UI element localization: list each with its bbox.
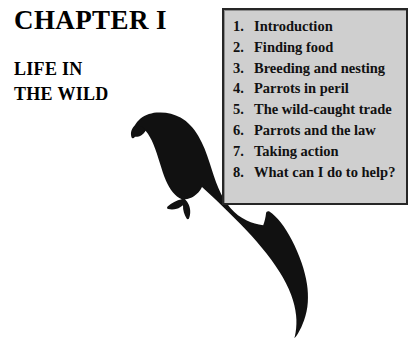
list-item-number: 5.: [230, 99, 251, 120]
list-item-label: Parrots in peril: [251, 78, 402, 99]
list-item-number: 6.: [230, 120, 251, 141]
list-item-label: Introduction: [251, 16, 402, 37]
list-item-number: 3.: [230, 58, 251, 79]
list-item[interactable]: 4. Parrots in peril: [230, 78, 402, 99]
chapter-subtitle-line-2: THE WILD: [14, 82, 109, 107]
list-item[interactable]: 3. Breeding and nesting: [230, 58, 402, 79]
list-item[interactable]: 2. Finding food: [230, 37, 402, 58]
chapter-subtitle: LIFE IN THE WILD: [14, 57, 109, 107]
list-item[interactable]: 8. What can I do to help?: [230, 162, 402, 183]
list-item-label: Breeding and nesting: [251, 58, 402, 79]
list-item-label: The wild-caught trade: [251, 99, 402, 120]
list-item[interactable]: 7. Taking action: [230, 141, 402, 162]
contents-list: 1. Introduction 2. Finding food 3. Breed…: [230, 16, 402, 182]
list-item-number: 1.: [230, 16, 251, 37]
list-item[interactable]: 1. Introduction: [230, 16, 402, 37]
list-item-number: 8.: [230, 162, 251, 183]
list-item-label: Parrots and the law: [251, 120, 402, 141]
list-item-number: 7.: [230, 141, 251, 162]
list-item-label: What can I do to help?: [251, 162, 402, 183]
list-item[interactable]: 6. Parrots and the law: [230, 120, 402, 141]
list-item-number: 4.: [230, 78, 251, 99]
list-item-label: Taking action: [251, 141, 402, 162]
book-page: CHAPTER I LIFE IN THE WILD 1. Introducti…: [0, 0, 415, 344]
list-item[interactable]: 5. The wild-caught trade: [230, 99, 402, 120]
list-item-label: Finding food: [251, 37, 402, 58]
contents-box: 1. Introduction 2. Finding food 3. Breed…: [222, 8, 408, 205]
list-item-number: 2.: [230, 37, 251, 58]
chapter-subtitle-line-1: LIFE IN: [14, 57, 109, 82]
chapter-title: CHAPTER I: [14, 4, 167, 36]
